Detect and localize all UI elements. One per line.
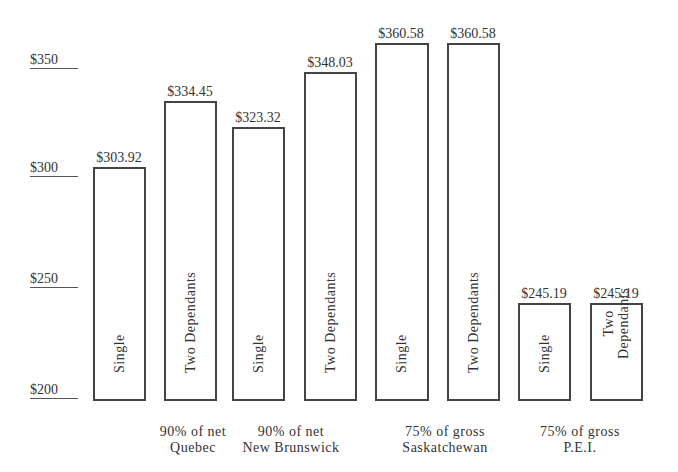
value-label: $360.58 bbox=[361, 26, 441, 41]
group-label-saskatchewan: 75% of gross Saskatchewan bbox=[375, 424, 515, 456]
value-label: $323.32 bbox=[218, 110, 298, 125]
y-tick-200: $200 bbox=[30, 382, 78, 399]
value-label: $245.19 bbox=[504, 286, 584, 301]
value-label: $303.92 bbox=[79, 150, 159, 165]
bar-label: Two Dependants bbox=[183, 272, 199, 373]
y-tick-300: $300 bbox=[30, 160, 78, 177]
value-label: $334.45 bbox=[150, 84, 230, 99]
bar-label: Two Dependants bbox=[323, 272, 339, 373]
bar-label: Single bbox=[251, 334, 267, 373]
bar-label: Single bbox=[394, 334, 410, 373]
group-label-pei: 75% of gross P.E.I. bbox=[510, 424, 650, 456]
bar-label: TwoDependants bbox=[601, 288, 631, 359]
value-label: $348.03 bbox=[290, 55, 370, 70]
y-tick-350: $350 bbox=[30, 52, 78, 69]
value-label: $360.58 bbox=[433, 26, 513, 41]
group-label-new-brunswick: 90% of net New Brunswick bbox=[221, 424, 361, 456]
bar-label: Single bbox=[537, 334, 553, 373]
bar-label: Two Dependants bbox=[466, 272, 482, 373]
y-tick-250: $250 bbox=[30, 271, 78, 288]
bar-label: Single bbox=[112, 334, 128, 373]
